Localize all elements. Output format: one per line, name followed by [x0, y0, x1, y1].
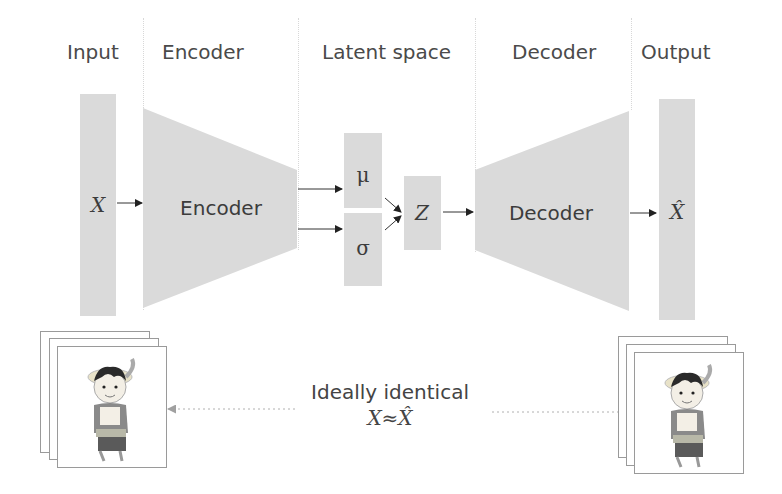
caption-text: Ideally identical [311, 380, 469, 404]
output-symbol: X̂ [670, 200, 684, 224]
sigma-symbol: σ [356, 236, 370, 260]
input-image-frame-front [57, 346, 167, 468]
encoder-label: Encoder [180, 196, 262, 220]
mu-symbol: μ [357, 163, 370, 187]
decoder-label: Decoder [509, 201, 593, 225]
arrow-sigma-to-z [385, 216, 401, 230]
z-symbol: Z [415, 201, 429, 225]
input-symbol: X [91, 193, 105, 217]
character-image-icon [635, 353, 743, 473]
arrow-mu-to-z [385, 198, 401, 212]
caption: Ideally identical X≈X̂ [311, 380, 469, 430]
output-image-frame-front [634, 352, 744, 474]
caption-equation: X≈X̂ [311, 406, 469, 430]
character-image-icon [58, 347, 166, 467]
